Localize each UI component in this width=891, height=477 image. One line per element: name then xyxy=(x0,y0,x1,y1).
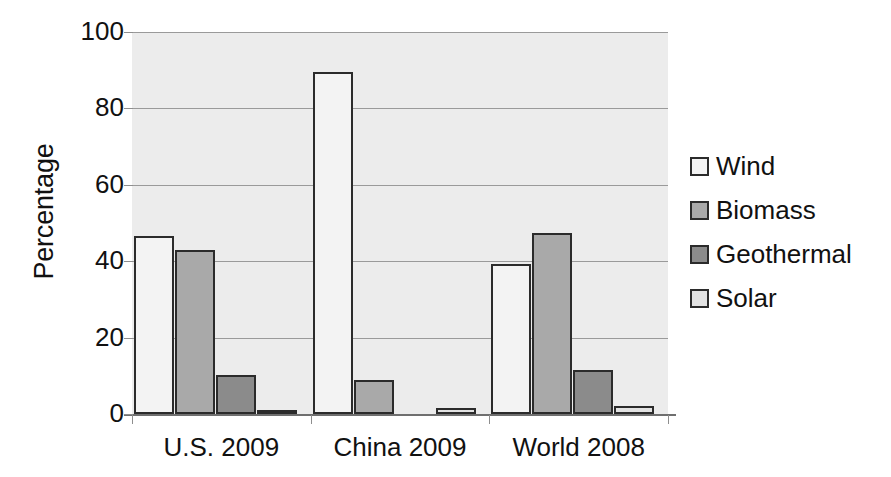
y-axis-tick-label: 60 xyxy=(58,171,124,197)
x-axis-line xyxy=(124,414,676,416)
chart-legend: WindBiomassGeothermalSolar xyxy=(690,144,886,320)
bar-chart-figure: Percentage 020406080100 U.S. 2009China 2… xyxy=(0,0,891,477)
bar-wind-u-s-2009 xyxy=(134,236,174,414)
x-axis-tick-mark xyxy=(132,415,133,424)
y-axis-tick-mark xyxy=(124,185,133,186)
y-axis-tick-mark xyxy=(124,32,133,33)
bar-solar-china-2009 xyxy=(436,408,476,414)
legend-label: Geothermal xyxy=(716,241,852,267)
x-axis-tick-mark xyxy=(668,415,669,424)
bar-geothermal-world-2008 xyxy=(573,370,613,414)
x-axis-tick-mark xyxy=(311,415,312,424)
y-axis-tick-label: 80 xyxy=(58,94,124,120)
bar-solar-u-s-2009 xyxy=(257,410,297,414)
plot-area xyxy=(132,32,668,414)
legend-swatch-icon xyxy=(690,245,709,264)
bar-group xyxy=(491,32,654,414)
bar-wind-world-2008 xyxy=(491,264,531,414)
y-axis-line xyxy=(124,32,132,415)
x-axis-tick-mark xyxy=(489,415,490,424)
bar-biomass-china-2009 xyxy=(354,380,394,414)
y-axis-tick-label: 40 xyxy=(58,247,124,273)
y-axis-tick-label: 0 xyxy=(58,400,124,426)
legend-item-solar: Solar xyxy=(690,276,886,320)
y-axis-tick-label: 100 xyxy=(58,18,124,44)
legend-label: Solar xyxy=(716,285,777,311)
y-axis-tick-mark xyxy=(124,108,133,109)
bar-solar-world-2008 xyxy=(614,406,654,414)
legend-label: Wind xyxy=(716,153,775,179)
y-axis-tick-mark xyxy=(124,338,133,339)
legend-item-geothermal: Geothermal xyxy=(690,232,886,276)
legend-swatch-icon xyxy=(690,289,709,308)
bar-geothermal-u-s-2009 xyxy=(216,375,256,414)
x-axis-tick-label: China 2009 xyxy=(311,432,490,463)
legend-swatch-icon xyxy=(690,157,709,176)
y-axis-tick-mark xyxy=(124,261,133,262)
bar-wind-china-2009 xyxy=(313,72,353,414)
bar-group xyxy=(313,32,476,414)
bar-biomass-world-2008 xyxy=(532,233,572,414)
x-axis-tick-label: U.S. 2009 xyxy=(132,432,311,463)
legend-item-biomass: Biomass xyxy=(690,188,886,232)
legend-item-wind: Wind xyxy=(690,144,886,188)
legend-swatch-icon xyxy=(690,201,709,220)
bar-group xyxy=(134,32,297,414)
y-axis-tick-labels: 020406080100 xyxy=(50,0,124,477)
y-axis-tick-label: 20 xyxy=(58,324,124,350)
legend-label: Biomass xyxy=(716,197,816,223)
bar-biomass-u-s-2009 xyxy=(175,250,215,414)
x-axis-tick-label: World 2008 xyxy=(489,432,668,463)
